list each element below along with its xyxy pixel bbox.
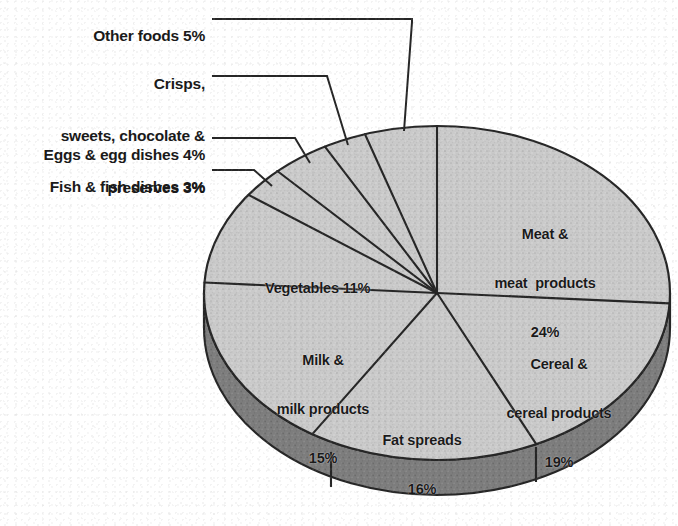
slice-label-milk-line2: milk products <box>235 401 411 417</box>
pie-chart: Other foods 5% Crisps, sweets, chocolate… <box>0 0 678 526</box>
slice-label-fish-text: Fish & fish dishes 3% <box>50 178 205 195</box>
slice-label-cereal-line1: Cereal & <box>466 356 652 372</box>
slice-label-vegetables-text: Vegetables 11% <box>265 280 370 296</box>
slice-label-meat-line2: meat products <box>455 275 635 291</box>
slice-label-milk: Milk & milk products 15% <box>235 320 411 499</box>
slice-label-fish: Fish & fish dishes 3% <box>0 161 205 213</box>
slice-label-crisps-line1: Crisps, <box>0 75 205 92</box>
leader-line-crisps <box>212 76 348 145</box>
slice-label-meat-line1: Meat & <box>455 226 635 242</box>
slice-label-milk-line3: 15% <box>235 450 411 466</box>
slice-label-milk-line1: Milk & <box>235 352 411 368</box>
slice-label-vegetables: Vegetables 11% <box>220 264 400 313</box>
